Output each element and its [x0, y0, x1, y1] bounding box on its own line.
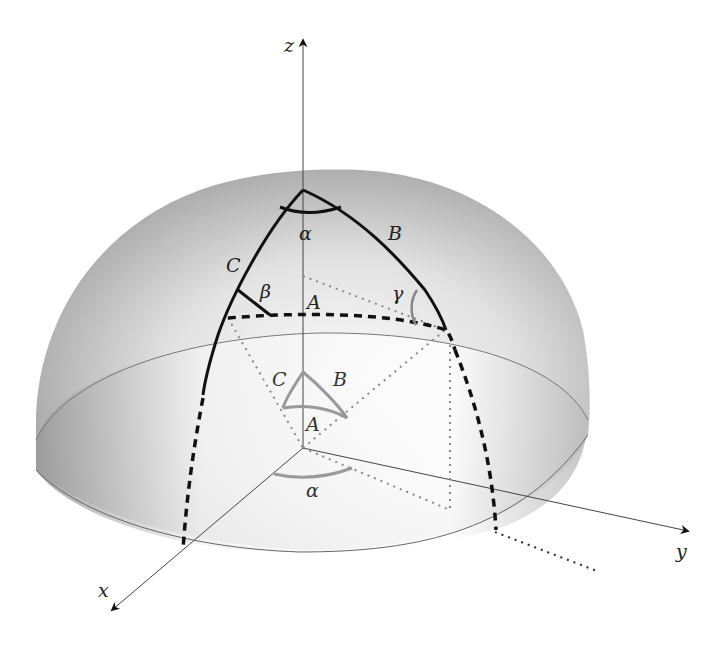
inner-label-alpha: α — [306, 479, 319, 501]
label-side-C: C — [226, 254, 241, 276]
x-axis-label: x — [98, 579, 109, 601]
label-side-A: A — [305, 291, 321, 313]
z-axis-label: z — [283, 34, 295, 56]
label-alpha: α — [299, 222, 312, 244]
inner-label-A: A — [304, 413, 320, 435]
inner-label-B: B — [332, 368, 347, 390]
label-gamma: γ — [392, 282, 404, 304]
inner-label-C: C — [272, 368, 287, 390]
label-beta: β — [259, 280, 271, 302]
y-axis-label: y — [675, 540, 687, 562]
label-side-B: B — [387, 222, 402, 244]
spherical-triangle-diagram: z x y α B C β A γ C B A α — [0, 0, 717, 645]
diagram-canvas: z x y α B C β A γ C B A α — [0, 0, 717, 645]
